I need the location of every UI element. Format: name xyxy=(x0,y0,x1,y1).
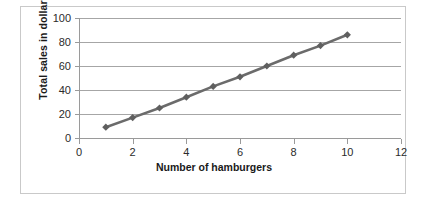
series-line xyxy=(106,35,348,127)
x-axis-tick-label: 2 xyxy=(130,146,136,158)
x-axis-tick-label: 4 xyxy=(183,146,189,158)
data-point-marker xyxy=(236,73,243,80)
data-point-marker xyxy=(344,31,351,38)
data-point-marker xyxy=(317,42,324,49)
y-axis-tick-label: 60 xyxy=(59,60,71,72)
y-axis-tick-label: 80 xyxy=(59,36,71,48)
y-axis-tick-label: 40 xyxy=(59,84,71,96)
data-point-marker xyxy=(210,83,217,90)
x-axis-tick xyxy=(79,139,80,144)
data-point-marker xyxy=(129,114,136,121)
plot-area: 020406080100 024681012 xyxy=(79,18,401,138)
x-axis-tick-label: 10 xyxy=(341,146,353,158)
x-axis-tick xyxy=(294,139,295,144)
data-point-marker xyxy=(156,104,163,111)
x-axis-tick-label: 12 xyxy=(395,146,407,158)
y-axis-title: Total sales in dollars xyxy=(37,0,49,107)
data-point-marker xyxy=(290,52,297,59)
clipped-header-text xyxy=(43,7,243,11)
y-axis-tick-label: 20 xyxy=(59,108,71,120)
x-axis-title: Number of hamburgers xyxy=(21,161,407,173)
x-axis-tick xyxy=(240,139,241,144)
x-axis-tick-label: 0 xyxy=(76,146,82,158)
data-point-marker xyxy=(263,62,270,69)
x-axis-tick-label: 6 xyxy=(237,146,243,158)
x-axis-tick xyxy=(401,139,402,144)
chart-container: Total sales in dollars 020406080100 0246… xyxy=(20,6,406,194)
x-axis-tick xyxy=(347,139,348,144)
data-point-marker xyxy=(102,124,109,131)
x-axis-tick xyxy=(186,139,187,144)
x-axis-tick xyxy=(133,139,134,144)
data-point-marker xyxy=(183,94,190,101)
y-axis-tick-label: 100 xyxy=(53,12,71,24)
x-axis-tick-label: 8 xyxy=(291,146,297,158)
data-series-line xyxy=(79,18,401,139)
y-axis-tick-label: 0 xyxy=(65,132,71,144)
